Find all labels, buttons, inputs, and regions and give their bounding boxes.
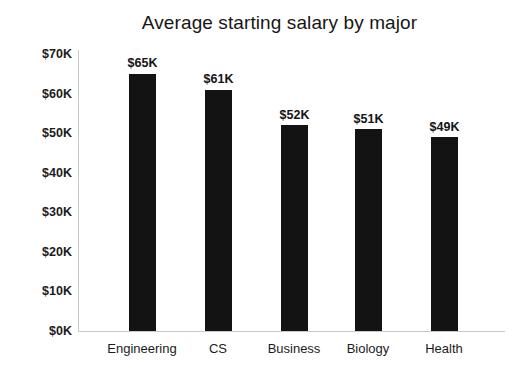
y-tick-label: $0K bbox=[10, 324, 72, 338]
x-axis-line bbox=[78, 331, 505, 332]
y-axis-tick-labels: $70K $60K $50K $40K $30K $20K $10K $0K bbox=[8, 0, 72, 378]
bar-rect bbox=[431, 137, 458, 331]
y-tick-label: $40K bbox=[10, 166, 72, 180]
bar-rect bbox=[355, 129, 382, 331]
bar-chart: Average starting salary by major $70K $6… bbox=[0, 0, 523, 378]
bar-value-label: $52K bbox=[280, 108, 310, 122]
y-tick-label: $20K bbox=[10, 245, 72, 259]
y-tick-label: $50K bbox=[10, 126, 72, 140]
bar-rect bbox=[205, 90, 232, 331]
bar-value-label: $61K bbox=[204, 72, 234, 86]
bar-value-label: $51K bbox=[354, 112, 384, 126]
chart-title: Average starting salary by major bbox=[0, 12, 523, 34]
x-tick-label-biology: Biology bbox=[347, 341, 390, 356]
x-tick-label-engineering: Engineering bbox=[107, 341, 176, 356]
y-tick-label: $70K bbox=[10, 47, 72, 61]
bar-value-label: $49K bbox=[430, 120, 460, 134]
x-tick-label-business: Business bbox=[268, 341, 321, 356]
y-tick-label: $60K bbox=[10, 87, 72, 101]
y-tick-label: $10K bbox=[10, 284, 72, 298]
bar-rect bbox=[281, 125, 308, 331]
bar-rect bbox=[129, 74, 156, 331]
x-tick-label-health: Health bbox=[425, 341, 463, 356]
y-tick-label: $30K bbox=[10, 205, 72, 219]
bar-value-label: $65K bbox=[128, 56, 158, 70]
x-tick-label-cs: CS bbox=[209, 341, 227, 356]
plot-area: $65K $61K $52K $51K $49K bbox=[78, 54, 505, 331]
